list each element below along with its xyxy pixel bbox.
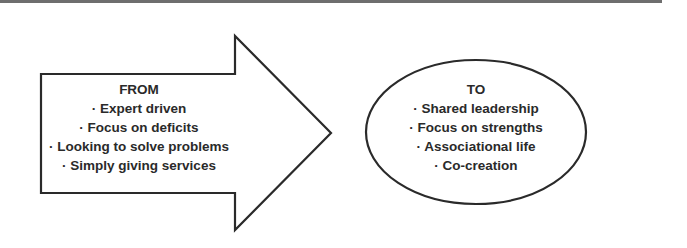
to-item: · Focus on strengths [366, 118, 586, 137]
from-item: · Focus on deficits [41, 118, 237, 137]
to-heading: TO [366, 80, 586, 99]
from-text-block: FROM · Expert driven · Focus on deficits… [41, 80, 237, 175]
to-text-block: TO · Shared leadership · Focus on streng… [366, 80, 586, 175]
to-item: · Associational life [366, 137, 586, 156]
from-item: · Simply giving services [41, 156, 237, 175]
from-item: · Looking to solve problems [41, 137, 237, 156]
from-heading: FROM [41, 80, 237, 99]
from-item: · Expert driven [41, 99, 237, 118]
to-item: · Shared leadership [366, 99, 586, 118]
to-item: · Co-creation [366, 156, 586, 175]
